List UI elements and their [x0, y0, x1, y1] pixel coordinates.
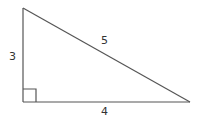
label-horizontal-side: 4 [101, 105, 108, 118]
right-angle-marker [23, 89, 36, 102]
label-vertical-side: 3 [9, 50, 16, 63]
hypotenuse [23, 8, 190, 102]
label-hypotenuse: 5 [101, 34, 108, 47]
triangle-diagram: 3 5 4 [0, 0, 205, 123]
